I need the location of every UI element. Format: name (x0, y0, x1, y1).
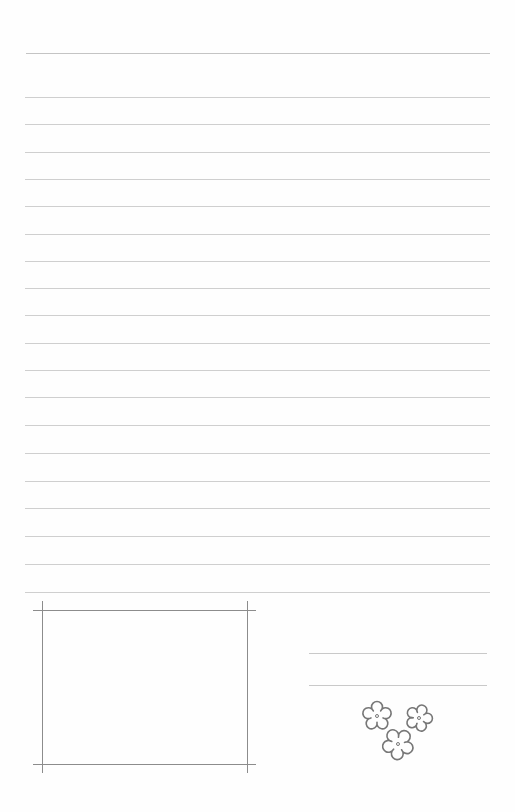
frame-vertical-line (42, 601, 43, 773)
ruled-line (25, 152, 490, 153)
lined-paper-page (0, 0, 515, 812)
ruled-line (25, 234, 490, 235)
ruled-line (25, 288, 490, 289)
frame-vertical-line (247, 601, 248, 773)
ruled-line (25, 206, 490, 207)
flower-cluster-icon (355, 695, 445, 765)
flower-icon (363, 701, 391, 728)
ruled-line (25, 397, 490, 398)
ruled-line (25, 97, 490, 98)
ruled-line (25, 261, 490, 262)
ruled-line (25, 179, 490, 180)
ruled-line (25, 453, 490, 454)
flower-icon (407, 705, 432, 731)
ruled-line (25, 124, 490, 125)
frame-horizontal-line (33, 610, 256, 611)
signature-line (309, 685, 487, 686)
top-rule-line (26, 53, 490, 54)
ruled-line (25, 536, 490, 537)
frame-horizontal-line (33, 764, 256, 765)
signature-line (309, 653, 487, 654)
ruled-line (25, 370, 490, 371)
ruled-line (25, 592, 490, 593)
ruled-line (25, 481, 490, 482)
ruled-line (25, 564, 490, 565)
ruled-line (25, 343, 490, 344)
flower-icon (383, 730, 413, 760)
ruled-line (25, 508, 490, 509)
ruled-line (25, 315, 490, 316)
ruled-line (25, 425, 490, 426)
